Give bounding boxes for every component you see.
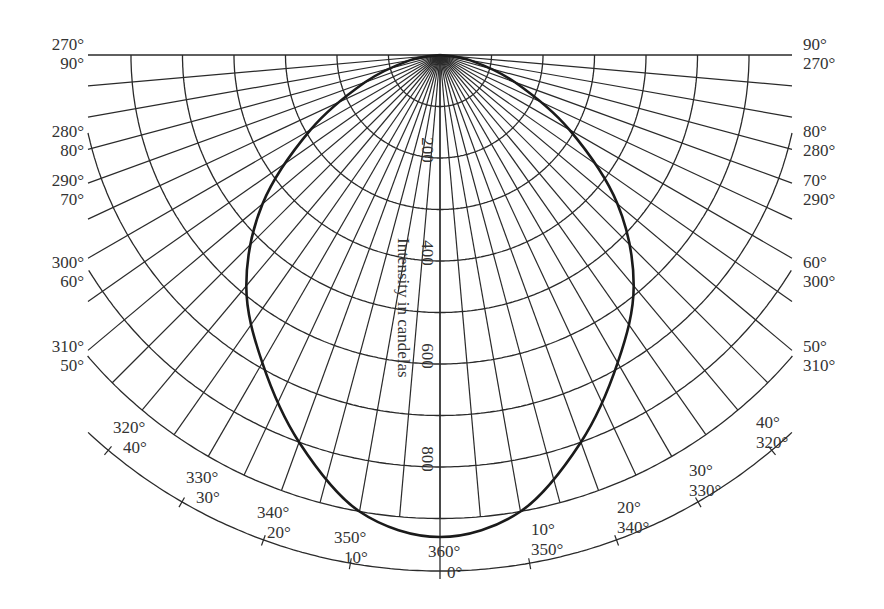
right-angle-label: 50° (803, 337, 827, 356)
radial-tick-label: 800 (418, 446, 437, 472)
radial-tick-label: 200 (418, 137, 437, 163)
left-angle-label: 70° (60, 190, 84, 209)
polar-intensity-chart: 270°90°90°270°280°80°80°280°290°70°70°29… (0, 0, 884, 609)
left-angle-label: 330° (186, 468, 218, 487)
radial-tick-label: 400 (418, 240, 437, 266)
left-angle-label: 340° (257, 503, 289, 522)
left-angle-label: 20° (267, 523, 291, 542)
right-angle-label: 280° (803, 141, 835, 160)
left-angle-label: 350° (334, 528, 366, 547)
left-angle-label: 300° (52, 253, 84, 272)
left-angle-label: 60° (60, 272, 84, 291)
left-angle-label: 320° (113, 418, 145, 437)
bottom-angle-label: 360° (428, 542, 460, 561)
right-angle-label: 350° (531, 540, 563, 559)
left-angle-label: 270° (52, 35, 84, 54)
right-angle-label: 60° (803, 253, 827, 272)
angle-labels: 270°90°90°270°280°80°80°280°290°70°70°29… (52, 35, 836, 582)
left-angle-label: 10° (344, 548, 368, 567)
right-angle-label: 90° (803, 35, 827, 54)
right-angle-label: 300° (803, 272, 835, 291)
left-angle-label: 40° (123, 438, 147, 457)
right-angle-label: 290° (803, 190, 835, 209)
left-angle-label: 50° (60, 356, 84, 375)
right-angle-label: 340° (617, 518, 649, 537)
left-angle-label: 90° (60, 54, 84, 73)
radial-axis-title: Intensity in candelas (394, 238, 413, 378)
polar-grid (88, 55, 793, 579)
bottom-angle-label: 0° (447, 563, 462, 582)
radial-tick-labels: 200400600800 (418, 137, 437, 472)
right-angle-label: 320° (756, 433, 788, 452)
right-angle-label: 10° (531, 520, 555, 539)
right-angle-label: 40° (756, 413, 780, 432)
left-angle-label: 310° (52, 337, 84, 356)
right-angle-label: 330° (689, 481, 721, 500)
right-angle-label: 310° (803, 356, 835, 375)
right-angle-label: 270° (803, 54, 835, 73)
radial-tick-label: 600 (418, 343, 437, 369)
left-angle-label: 30° (196, 488, 220, 507)
right-angle-label: 80° (803, 122, 827, 141)
right-angle-label: 30° (689, 461, 713, 480)
left-angle-label: 280° (52, 122, 84, 141)
left-angle-label: 290° (52, 171, 84, 190)
right-angle-label: 70° (803, 171, 827, 190)
right-angle-label: 20° (617, 498, 641, 517)
left-angle-label: 80° (60, 141, 84, 160)
